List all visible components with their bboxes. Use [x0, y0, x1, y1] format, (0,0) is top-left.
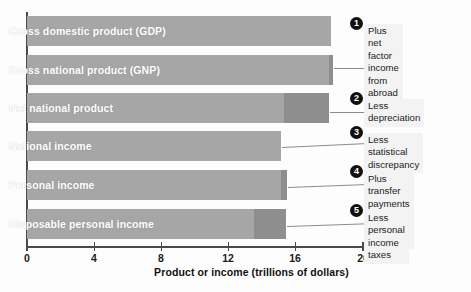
callout-badge: 2	[350, 92, 363, 105]
x-axis-tick-label: 8	[158, 252, 164, 264]
bar-segment-dark	[254, 209, 286, 239]
bar-label: National income	[9, 131, 92, 161]
bar-segment-dark	[281, 170, 288, 200]
x-axis-tick-label: 4	[91, 252, 97, 264]
x-axis-tick-label: 12	[222, 252, 234, 264]
x-axis-tick	[161, 242, 162, 251]
bar-label: Disposable personal income	[9, 209, 154, 239]
callout-badge: 4	[350, 165, 363, 178]
x-axis-title: Product or income (trillions of dollars)	[0, 266, 471, 278]
bar-label: Gross national product (GNP)	[9, 55, 160, 85]
bar-segment-dark	[284, 93, 329, 123]
x-axis-tick	[295, 242, 296, 251]
bar-label: Gross domestic product (GDP)	[9, 16, 166, 46]
chart-figure: Gross domestic product (GDP) Gross natio…	[0, 0, 471, 292]
x-axis-tick	[26, 242, 27, 251]
callout-text: Less depreciation	[364, 99, 424, 127]
callout-badge: 3	[350, 126, 363, 139]
callout-text: Less statistical discrepancy	[364, 133, 423, 173]
bar-label: Personal income	[9, 170, 95, 200]
bar-segment-dark	[329, 55, 332, 85]
callout-badge: 1	[350, 17, 363, 30]
callout-leader-line	[282, 143, 368, 148]
x-axis-tick-label: 0	[24, 252, 30, 264]
x-axis-line	[26, 246, 364, 248]
callout-leader-line	[287, 223, 368, 227]
callout-text: Less personal income taxes	[364, 211, 409, 264]
x-axis-tick	[94, 242, 95, 251]
x-axis-tick	[228, 242, 229, 251]
callout-text: Plus net factor income from abroad	[364, 24, 403, 101]
callout-badge: 5	[350, 204, 363, 217]
callout-leader-line	[334, 68, 368, 69]
x-axis-tick-label: 16	[289, 252, 301, 264]
bar-label: Net national product	[9, 93, 113, 123]
callout-leader-line	[330, 112, 368, 113]
callout-leader-line	[288, 184, 368, 188]
